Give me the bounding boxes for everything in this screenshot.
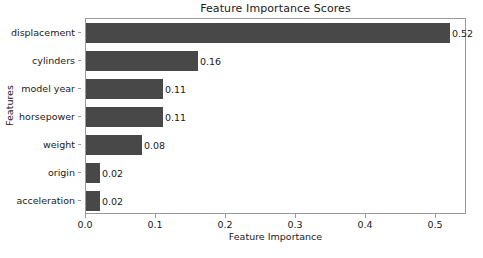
x-tick-mark — [225, 214, 226, 218]
y-tick-label: acceleration — [16, 195, 75, 206]
chart-title: Feature Importance Scores — [85, 2, 466, 15]
bar[interactable] — [86, 163, 100, 183]
bar-row: 0.11 — [86, 79, 467, 99]
x-tick-mark — [365, 214, 366, 218]
y-tick-mark — [78, 88, 82, 89]
bar-value-label: 0.08 — [142, 140, 165, 151]
x-tick-mark — [85, 214, 86, 218]
y-tick-label: displacement — [11, 27, 75, 38]
y-tick-mark — [78, 32, 82, 33]
x-tick-label: 0.5 — [427, 219, 442, 230]
x-tick-mark — [295, 214, 296, 218]
y-tick-label: horsepower — [19, 111, 75, 122]
figure-canvas: Feature Importance Scores 0.520.160.110.… — [0, 0, 483, 258]
bar-row: 0.02 — [86, 163, 467, 183]
y-tick-label: model year — [21, 83, 75, 94]
x-tick-label: 0.3 — [287, 219, 302, 230]
bar-row: 0.52 — [86, 23, 467, 43]
y-tick-mark — [78, 200, 82, 201]
bar[interactable] — [86, 191, 100, 211]
y-tick-label: origin — [48, 167, 75, 178]
y-tick-label: cylinders — [32, 55, 75, 66]
y-tick-mark — [78, 60, 82, 61]
bar-value-label: 0.02 — [100, 168, 123, 179]
x-tick-label: 0.4 — [357, 219, 372, 230]
y-axis-label: Features — [4, 66, 15, 146]
x-tick-label: 0.2 — [217, 219, 232, 230]
bar-row: 0.11 — [86, 107, 467, 127]
bar-value-label: 0.11 — [163, 84, 186, 95]
bar-row: 0.02 — [86, 191, 467, 211]
bar-value-label: 0.16 — [198, 56, 221, 67]
bar[interactable] — [86, 135, 142, 155]
x-tick-label: 0.1 — [147, 219, 162, 230]
y-tick-mark — [78, 172, 82, 173]
bar-row: 0.08 — [86, 135, 467, 155]
bar[interactable] — [86, 51, 198, 71]
y-tick-mark — [78, 116, 82, 117]
bar-value-label: 0.52 — [450, 28, 473, 39]
x-tick-mark — [155, 214, 156, 218]
x-tick-mark — [435, 214, 436, 218]
bar-value-label: 0.11 — [163, 112, 186, 123]
x-tick-label: 0.0 — [77, 219, 92, 230]
bar-row: 0.16 — [86, 51, 467, 71]
plot-area: 0.520.160.110.110.080.020.02 — [85, 18, 466, 214]
bar[interactable] — [86, 107, 163, 127]
bar-value-label: 0.02 — [100, 196, 123, 207]
y-tick-label: weight — [43, 139, 75, 150]
bar[interactable] — [86, 23, 450, 43]
bar[interactable] — [86, 79, 163, 99]
x-axis-label: Feature Importance — [85, 231, 466, 242]
y-tick-mark — [78, 144, 82, 145]
